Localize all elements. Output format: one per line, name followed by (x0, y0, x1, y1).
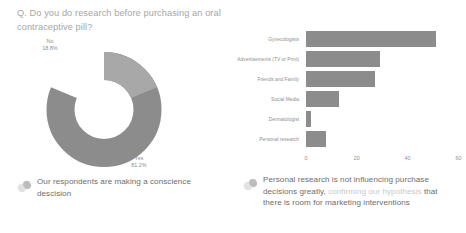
bar-row: Dermatologist (226, 111, 464, 127)
bar-fill (306, 71, 375, 87)
bar-fill (306, 91, 339, 107)
bar-row: Friends and Family (226, 71, 464, 87)
bar-category-label: Gynecologists (226, 31, 302, 47)
pill-icon (17, 178, 32, 196)
donut-chart-svg (46, 51, 162, 168)
insight-right-muted: confirming our hypothesis (328, 187, 421, 196)
bar-category-label: Friends and Family (226, 71, 302, 87)
pill-icon (243, 176, 258, 194)
bar-chart-x-axis: 0 20 40 60 (306, 155, 464, 167)
bar-row: Gynecologists (226, 31, 464, 47)
insight-left-text: Our respondents are making a conscience … (37, 176, 222, 199)
donut-label-no: No 18.8% (33, 38, 67, 52)
bar-chart: Gynecologists Advertisements (TV or Prin… (226, 31, 464, 167)
donut-label-no-name: No (33, 38, 67, 45)
bar-fill (306, 111, 311, 127)
donut-label-yes-percent: 81.2% (122, 162, 156, 169)
bar-fill (306, 51, 380, 67)
slide-canvas: Q. Do you do research before purchasing … (0, 0, 466, 233)
donut-label-yes-name: Yes (122, 155, 156, 162)
bar-category-label: Dermatologist (226, 111, 302, 127)
bar-category-label: Social Media (226, 91, 302, 107)
donut-label-no-percent: 18.8% (33, 45, 67, 52)
x-axis-tick: 0 (305, 155, 308, 161)
bar-fill (306, 131, 326, 147)
x-axis-tick: 20 (354, 155, 360, 161)
bar-row: Advertisements (TV or Print) (226, 51, 464, 67)
x-axis-tick: 60 (455, 155, 461, 161)
x-axis-tick: 40 (405, 155, 411, 161)
bar-category-label: Advertisements (TV or Print) (226, 51, 302, 67)
donut-label-yes: Yes 81.2% (122, 155, 156, 169)
bar-row: Personal research (226, 131, 464, 147)
insight-right: Personal research is not influencing pur… (243, 174, 458, 209)
insight-left: Our respondents are making a conscience … (17, 176, 222, 199)
bar-category-label: Personal research (226, 131, 302, 147)
bar-fill (306, 31, 436, 47)
bar-row: Social Media (226, 91, 464, 107)
donut-chart (46, 51, 162, 168)
insight-right-text: Personal research is not influencing pur… (263, 174, 458, 209)
question-text: Q. Do you do research before purchasing … (17, 6, 232, 34)
